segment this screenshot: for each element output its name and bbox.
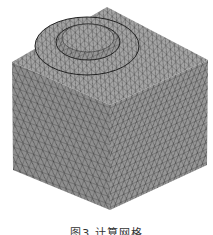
figure-caption: 图3 计算网格 [0,224,213,235]
mesh-figure [0,0,213,235]
boss-top [62,24,114,52]
cube-mesh [12,7,208,210]
